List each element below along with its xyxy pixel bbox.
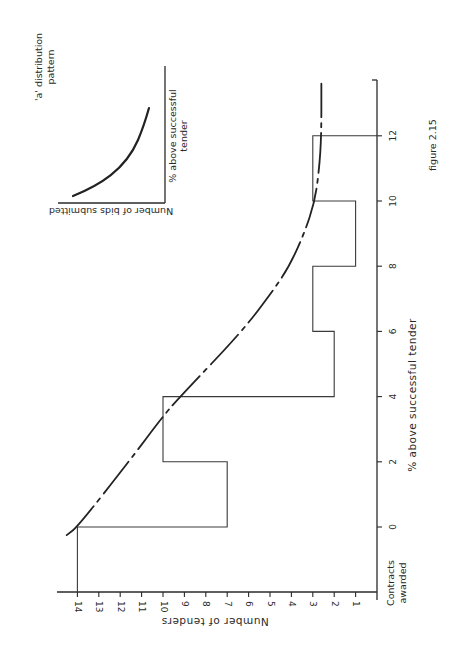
contracts-awarded-label-2: awarded (397, 562, 408, 603)
y-axis-label: Number of tenders (161, 616, 269, 628)
figure-2-15-chart: 024681012 1234567891011121314 % above su… (0, 0, 457, 653)
contracts-awarded-label-1: Contracts (385, 560, 396, 606)
tenders-tick-label: 12 (116, 601, 126, 612)
tenders-tick-label: 4 (287, 601, 297, 607)
tenders-axis-ticks: 1234567891011121314 (73, 592, 361, 613)
inset-y-label-2: tender (178, 120, 189, 151)
percent-tick-label: 4 (388, 393, 398, 399)
tenders-tick-label: 10 (159, 601, 169, 613)
percent-tick-label: 6 (388, 328, 398, 334)
tenders-tick-label: 3 (308, 601, 318, 607)
histogram-bars (77, 136, 377, 592)
tenders-tick-label: 6 (244, 601, 254, 607)
percent-tick-label: 0 (388, 524, 398, 530)
tenders-tick-label: 1 (351, 601, 361, 607)
percent-axis-ticks: 024681012 (377, 130, 398, 530)
tenders-tick-label: 2 (330, 601, 340, 607)
x-axis-label: % above successful tender (406, 318, 418, 472)
percent-tick-label: 2 (388, 459, 398, 465)
inset-distribution-curve (73, 108, 149, 196)
percent-tick-label: 8 (388, 263, 398, 269)
tenders-tick-label: 9 (180, 601, 190, 607)
percent-tick-label: 12 (388, 130, 398, 141)
tenders-tick-label: 7 (223, 601, 233, 607)
fitted-curve-dashed (67, 84, 322, 536)
tenders-tick-label: 11 (137, 601, 147, 612)
inset-x-label: Number of bids submitted (49, 206, 173, 217)
histogram-outline (77, 136, 377, 592)
tenders-tick-label: 8 (201, 601, 211, 607)
inset-title-2: pattern (45, 50, 56, 85)
tenders-tick-label: 14 (73, 601, 83, 613)
tenders-tick-label: 13 (94, 601, 104, 612)
figure-label: figure 2.15 (427, 119, 438, 171)
percent-tick-label: 10 (388, 195, 398, 207)
inset-y-label-1: % above successful (167, 89, 178, 182)
inset-chart: 'a' distribution pattern Number of bids … (33, 33, 189, 217)
inset-title-1: 'a' distribution (33, 33, 44, 101)
tenders-tick-label: 5 (266, 601, 276, 607)
